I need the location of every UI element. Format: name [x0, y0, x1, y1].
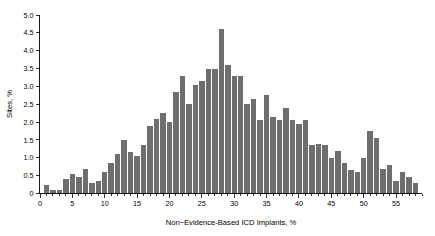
histogram-bar — [225, 65, 230, 194]
histogram-bar — [121, 140, 126, 194]
histogram-bar — [348, 170, 353, 193]
histogram-bar — [199, 81, 204, 193]
histogram-bar — [206, 69, 211, 194]
x-tick-label: 40 — [295, 199, 303, 208]
y-tick-label: 3.0 — [24, 82, 34, 91]
histogram-bar — [134, 156, 139, 193]
histogram-bar — [147, 126, 152, 194]
histogram-bar — [342, 163, 347, 193]
y-tick-label: 2.0 — [24, 118, 34, 127]
y-tick-label: 0 — [30, 189, 34, 198]
histogram-bar — [316, 144, 321, 194]
histogram-plot: 0510152025303540455055 00.51.01.52.02.53… — [0, 0, 435, 236]
histogram-bar — [264, 95, 269, 193]
histogram-bar — [173, 92, 178, 194]
x-tick-label: 35 — [263, 199, 271, 208]
x-axis-title: Non−Evidence-Based ICD Implants, % — [166, 218, 297, 227]
x-tick-label: 30 — [230, 199, 238, 208]
histogram-bar — [180, 76, 185, 194]
y-tick-label: 4.0 — [24, 46, 34, 55]
histogram-bar — [50, 190, 55, 194]
x-tick-label: 0 — [38, 199, 42, 208]
histogram-bar — [387, 165, 392, 194]
histogram-bar — [167, 122, 172, 193]
histogram-bar — [329, 158, 334, 194]
histogram-bar — [303, 120, 308, 193]
histogram-bar — [244, 104, 249, 193]
histogram-bar — [108, 163, 113, 193]
histogram-bar — [374, 138, 379, 193]
histogram-bar — [393, 181, 398, 194]
x-tick-label: 15 — [133, 199, 141, 208]
histogram-bar — [322, 145, 327, 193]
histogram-bar — [141, 145, 146, 193]
x-tick-label: 55 — [392, 199, 400, 208]
histogram-bar — [89, 183, 94, 194]
histogram-bar — [96, 181, 101, 194]
x-tick-label: 45 — [327, 199, 335, 208]
histogram-bar — [367, 131, 372, 193]
histogram-bar — [270, 117, 275, 194]
y-tick-label: 4.5 — [24, 28, 34, 37]
histogram-bar — [335, 151, 340, 194]
histogram-bar — [193, 85, 198, 194]
histogram-bar — [232, 76, 237, 194]
y-tick-label: 1.0 — [24, 153, 34, 162]
y-tick-label: 1.5 — [24, 136, 34, 145]
histogram-bar — [361, 158, 366, 194]
x-tick-label: 25 — [198, 199, 206, 208]
bars-group — [44, 29, 419, 193]
histogram-bar — [277, 120, 282, 193]
histogram-bar — [238, 76, 243, 194]
histogram-bar — [83, 169, 88, 194]
histogram-bar — [355, 172, 360, 193]
y-tick-label: 5.0 — [24, 11, 34, 20]
y-tick-label: 3.5 — [24, 64, 34, 73]
histogram-bar — [70, 174, 75, 194]
histogram-bar — [115, 154, 120, 193]
histogram-bar — [128, 152, 133, 193]
histogram-bar — [186, 104, 191, 193]
x-tick-label: 50 — [360, 199, 368, 208]
x-tick-label: 10 — [101, 199, 109, 208]
x-tick-label: 20 — [165, 199, 173, 208]
histogram-figure: 0510152025303540455055 00.51.01.52.02.53… — [0, 0, 435, 236]
histogram-bar — [160, 113, 165, 193]
y-axis-ticks: 00.51.01.52.02.53.03.54.04.55.0 — [24, 11, 41, 199]
histogram-bar — [413, 183, 418, 194]
histogram-bar — [406, 177, 411, 193]
histogram-bar — [57, 190, 62, 194]
y-axis-title: Sites, % — [5, 90, 14, 118]
histogram-bar — [296, 124, 301, 194]
x-axis-ticks: 0510152025303540455055 — [38, 194, 422, 209]
histogram-bar — [154, 119, 159, 194]
histogram-bar — [380, 169, 385, 194]
y-tick-label: 2.5 — [24, 100, 34, 109]
histogram-bar — [251, 99, 256, 194]
histogram-bar — [102, 172, 107, 193]
histogram-bar — [400, 172, 405, 193]
histogram-bar — [309, 145, 314, 193]
histogram-bar — [219, 29, 224, 193]
histogram-bar — [257, 120, 262, 193]
histogram-bar — [63, 179, 68, 193]
histogram-bar — [283, 108, 288, 194]
histogram-bar — [290, 120, 295, 193]
histogram-bar — [76, 177, 81, 193]
x-tick-label: 5 — [70, 199, 74, 208]
histogram-bar — [212, 69, 217, 194]
y-tick-label: 0.5 — [24, 171, 34, 180]
histogram-bar — [44, 185, 49, 194]
